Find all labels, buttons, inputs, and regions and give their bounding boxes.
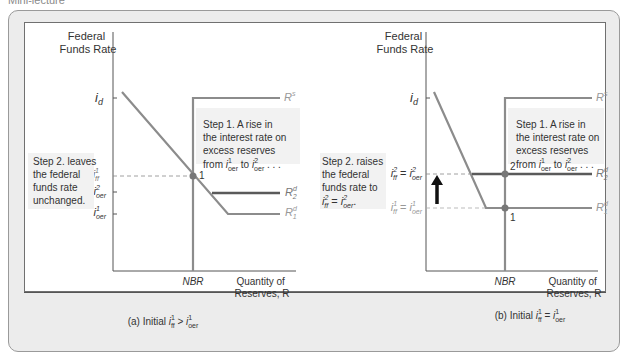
panel-a: Federal Funds Rate id i1ff i2oer i1oer R… [28,30,300,329]
panel-a-x-axis-title: Quantity of Reserves, R [234,276,289,299]
panel-a-label-rd1: Rd1 [285,205,298,220]
panel-b-point1-label: 1 [510,212,516,223]
panel-b-equilibrium-point-2 [502,171,509,178]
panel-a-label-rd2: Rd2 [285,185,298,200]
panel-b-label-id: id [410,90,419,107]
panel-a-equilibrium-point-1 [190,173,197,180]
panel-a-point1-label: 1 [199,170,205,181]
panel-b: Federal Funds Rate id i2ff = i2oer i1ff … [320,30,609,323]
panel-b-y-axis-title: Federal Funds Rate [377,30,434,55]
panel-a-label-id: id [95,90,104,107]
panel-a-label-rs: Rs [284,90,296,103]
arrow-up-icon [431,175,443,204]
panel-b-label-iff2-eq-ioer2: i2ff = i2oer [391,166,423,181]
panel-b-point2-label: 2 [510,161,516,172]
panel-b-step1-text-line4: from i1oer to i2oer . . . [516,157,594,172]
panel-b-label-rd1: Rd1 [596,200,609,215]
panel-b-equilibrium-point-1 [502,205,509,212]
panel-a-step1-text-line4: from i1oer to i2oer . . . [203,157,281,172]
panel-a-label-ioer1: i1oer [94,205,107,220]
panel-b-x-axis-title: Quantity of Reserves, R [546,276,601,299]
panel-a-y-axis-title: Federal Funds Rate [60,30,117,55]
panel-b-label-iff1-eq-ioer1: i1ff = i1oer [391,200,423,215]
panel-b-label-rs: Rs [596,90,608,103]
panel-b-label-rd2: Rd2 [596,166,609,181]
panel-a-caption: (a) Initial i1ff > i1oer [128,314,199,329]
panel-b-caption: (b) Initial i1ff = i1oer [495,308,566,323]
panel-b-x-tick-nbr: NBR [494,276,515,287]
panel-a-x-tick-nbr: NBR [182,276,203,287]
panel-a-label-ioer2: i2oer [94,184,107,199]
